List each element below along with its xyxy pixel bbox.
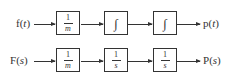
arrow	[34, 61, 55, 62]
input-fn: f	[16, 17, 20, 29]
numerator: 1	[65, 14, 71, 22]
numerator: 1	[113, 51, 119, 59]
integrator-block-1: ∫	[104, 11, 128, 35]
arrow	[81, 61, 103, 62]
input-fn: F	[10, 54, 16, 66]
output-label-laplace: P(s)	[203, 55, 221, 66]
input-var: s	[20, 54, 24, 66]
fraction: 1 s	[112, 51, 121, 70]
fraction: 1 m	[64, 51, 73, 70]
fraction: 1 m	[64, 14, 73, 33]
integral-symbol: ∫	[163, 17, 167, 30]
output-fn: p	[203, 17, 209, 29]
output-var: s	[213, 54, 217, 66]
integrator-block-1-over-s: 1 s	[153, 48, 177, 72]
integral-symbol: ∫	[114, 17, 118, 30]
integrator-block-2: ∫	[153, 11, 177, 35]
input-label-time: f(t)	[16, 18, 30, 29]
gain-block-1-over-m: 1 m	[56, 48, 80, 72]
integrator-block-1-over-s: 1 s	[104, 48, 128, 72]
denominator: s	[163, 62, 166, 70]
gain-block-1-over-m: 1 m	[56, 11, 80, 35]
denominator: s	[114, 62, 117, 70]
arrow	[177, 24, 200, 25]
arrow	[128, 61, 152, 62]
output-label-time: p(t)	[203, 18, 219, 29]
arrow	[177, 61, 200, 62]
arrow	[81, 24, 103, 25]
input-label-laplace: F(s)	[10, 55, 28, 66]
numerator: 1	[162, 51, 168, 59]
denominator: m	[65, 25, 71, 33]
numerator: 1	[65, 51, 71, 59]
arrow	[128, 24, 152, 25]
output-var: t	[212, 17, 215, 29]
output-fn: P	[203, 54, 209, 66]
input-var: t	[23, 17, 26, 29]
denominator: m	[65, 62, 71, 70]
fraction: 1 s	[161, 51, 170, 70]
arrow	[34, 24, 55, 25]
